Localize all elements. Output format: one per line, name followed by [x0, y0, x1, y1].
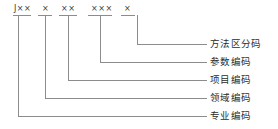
- annotation-label-major-code: 专业编码: [210, 110, 251, 121]
- code-segment-1: J××: [14, 4, 31, 14]
- code-segment-4: ×××: [91, 4, 113, 14]
- annotation-label-item-code: 项目编码: [210, 74, 251, 85]
- code-segment-2: ×: [42, 4, 49, 14]
- code-structure-diagram: J×× × ×× ××× × 方法区分码 参数编码 项目编码 领域编码 专业编码: [0, 0, 278, 129]
- code-segment-5: ×: [124, 4, 131, 14]
- annotation-label-domain-code: 领域编码: [210, 92, 251, 103]
- code-segment-3: ××: [61, 4, 75, 14]
- annotation-label-method-code: 方法区分码: [210, 38, 262, 49]
- annotation-label-parameter-code: 参数编码: [210, 56, 251, 67]
